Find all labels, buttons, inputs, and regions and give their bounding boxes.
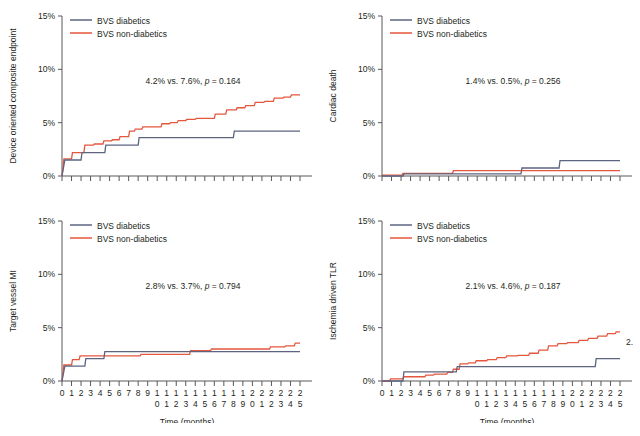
x-tick-label: 0	[380, 388, 385, 398]
x-tick-label: 1	[260, 399, 265, 409]
x-tick-label: 1	[475, 388, 480, 398]
x-tick-label: 1	[513, 388, 518, 398]
y-tick-label: 5%	[43, 323, 56, 333]
x-tick-label: 1	[503, 388, 508, 398]
x-tick-label: 2	[399, 388, 404, 398]
x-tick-label: 6	[532, 399, 537, 409]
x-tick-label: 1	[174, 388, 179, 398]
x-axis-title: Time (months)	[160, 417, 215, 423]
x-tick-label: 2	[174, 399, 179, 409]
curves-group	[382, 332, 620, 381]
x-tick-label: 1	[541, 388, 546, 398]
legend: BVS diabeticsBVS non-diabetics	[390, 16, 487, 39]
x-tick-label: 0	[250, 399, 255, 409]
x-tick-label: 2	[288, 388, 293, 398]
x-tick-label: 2	[618, 388, 623, 398]
annotation-stats: 1.4% vs. 0.5%,	[466, 76, 525, 86]
annotation-stats: 4.2% vs. 7.6%,	[146, 76, 205, 86]
x-tick-label: 7	[221, 399, 226, 409]
x-tick-label: 2	[589, 388, 594, 398]
x-tick-label: 0	[60, 388, 65, 398]
y-tick-label: 15%	[358, 216, 375, 226]
x-tick-label: 1	[164, 388, 169, 398]
chart-panel-device-oriented-composite-endpoint: 0%5%10%15%Device oriented composite endp…	[0, 0, 320, 218]
chart-panel-cardiac-death: 0%5%10%15%Cardiac deathBVS diabeticsBVS …	[320, 0, 640, 218]
legend: BVS diabeticsBVS non-diabetics	[390, 221, 487, 244]
annotation-stats: 2.1% vs. 4.6%,	[466, 281, 525, 291]
y-tick-label: 10%	[38, 269, 55, 279]
legend: BVS diabeticsBVS non-diabetics	[70, 16, 167, 39]
x-tick-label: 3	[408, 388, 413, 398]
x-tick-label: 5	[298, 399, 303, 409]
x-tick-label: 3	[503, 399, 508, 409]
x-tick-label: 1	[193, 388, 198, 398]
annotation-p-value: = 0.256	[529, 76, 560, 86]
x-tick-label: 5	[522, 399, 527, 409]
legend-item-bvs-diabetics-label: BVS diabetics	[417, 221, 470, 231]
curve-bvs-diabetics	[382, 359, 620, 381]
x-tick-label: 2	[580, 388, 585, 398]
x-tick-label: 4	[418, 388, 423, 398]
curves-group	[62, 95, 300, 176]
x-tick-label: 9	[561, 399, 566, 409]
legend: BVS diabeticsBVS non-diabetics	[70, 221, 167, 244]
x-tick-labels: 0123456789101112131415161718192021222324…	[60, 388, 303, 409]
x-tick-label: 1	[522, 388, 527, 398]
x-tick-label: 1	[183, 388, 188, 398]
x-tick-label: 7	[126, 388, 131, 398]
x-tick-label: 1	[580, 399, 585, 409]
curves-group	[382, 161, 620, 176]
legend-item-bvs-non-diabetics-label: BVS non-diabetics	[97, 29, 167, 39]
x-tick-label: 3	[183, 399, 188, 409]
curve-bvs-non-diabetics	[62, 95, 300, 176]
annotation-pvalue: 1.4% vs. 0.5%, p = 0.256	[466, 76, 561, 86]
x-tick-label: 2	[298, 388, 303, 398]
y-tick-label: 10%	[358, 64, 375, 74]
x-tick-label: 4	[193, 399, 198, 409]
x-tick-label: 8	[231, 399, 236, 409]
annotation-pvalue: 4.2% vs. 7.6%, p = 0.164	[146, 76, 241, 86]
x-tick-label: 1	[69, 388, 74, 398]
axes-group: 0%5%10%15%	[358, 11, 632, 181]
legend-item-bvs-diabetics-label: BVS diabetics	[97, 16, 150, 26]
annotation-pvalue: 2.8% vs. 3.7%, p = 0.794	[146, 281, 241, 291]
annotation-p-value: = 0.187	[529, 281, 560, 291]
x-tick-label: 5	[107, 388, 112, 398]
x-axis-title: Time (months)	[480, 417, 535, 423]
x-tick-label: 2	[494, 399, 499, 409]
x-tick-label: 2	[250, 388, 255, 398]
x-tick-label: 1	[532, 388, 537, 398]
axes-group: 0%5%10%15%	[38, 11, 312, 181]
y-tick-label: 15%	[38, 216, 55, 226]
x-tick-label: 1	[164, 399, 169, 409]
y-axis-title: Ischemia driven TLR	[328, 262, 338, 340]
x-tick-label: 2	[269, 388, 274, 398]
x-tick-label: 0	[475, 399, 480, 409]
y-axis-title: Device oriented composite endpoint	[8, 28, 18, 164]
figure-caption-strip	[0, 428, 640, 436]
x-tick-label: 8	[551, 399, 556, 409]
x-tick-label: 3	[279, 399, 284, 409]
x-tick-label: 1	[241, 388, 246, 398]
x-tick-label: 8	[136, 388, 141, 398]
x-tick-label: 3	[88, 388, 93, 398]
x-tick-label: 5	[427, 388, 432, 398]
x-tick-label: 2	[260, 388, 265, 398]
x-tick-label: 2	[608, 388, 613, 398]
legend-item-bvs-non-diabetics-label: BVS non-diabetics	[417, 29, 487, 39]
chart-panel-ischemia-driven-tlr: 0%5%10%15%012345678910111213141516171819…	[320, 205, 640, 423]
x-tick-label: 1	[202, 388, 207, 398]
x-tick-label: 2	[589, 399, 594, 409]
x-tick-label: 0	[155, 399, 160, 409]
curve-bvs-non-diabetics	[62, 343, 300, 381]
x-tick-label: 1	[221, 388, 226, 398]
y-axis-title: Cardiac death	[328, 69, 338, 122]
x-tick-label: 6	[212, 399, 217, 409]
x-tick-label: 9	[145, 388, 150, 398]
x-tick-label: 1	[561, 388, 566, 398]
x-tick-label: 4	[98, 388, 103, 398]
legend-item-bvs-non-diabetics-label: BVS non-diabetics	[417, 234, 487, 244]
x-tick-label: 2	[269, 399, 274, 409]
curves-group	[62, 343, 300, 381]
legend-item-bvs-diabetics-label: BVS diabetics	[417, 16, 470, 26]
